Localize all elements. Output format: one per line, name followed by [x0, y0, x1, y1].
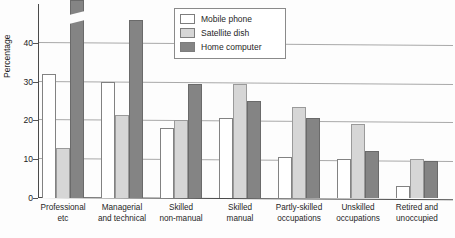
bar-home-computer-2	[129, 20, 143, 198]
bar-satellite-dish-4	[233, 84, 247, 198]
bar-home-computer-1	[70, 0, 84, 198]
x-category-label-line: Skilled	[207, 203, 273, 214]
bar-mobile-phone-3	[160, 128, 174, 198]
bar-mobile-phone-6	[337, 159, 351, 198]
bar-mobile-phone-7	[396, 186, 410, 198]
axis-break-icon	[70, 11, 84, 23]
legend-item-satellite-dish: Satellite dish	[180, 26, 280, 40]
legend-label-satellite-dish: Satellite dish	[201, 29, 249, 38]
y-tick-label-20: 20	[24, 116, 33, 125]
x-category-label-line: non-manual	[148, 214, 214, 225]
x-category-label-line: Skilled	[148, 203, 214, 214]
bar-satellite-dish-3	[174, 120, 188, 198]
y-axis-title: Percentage	[2, 35, 12, 78]
bar-group-7	[396, 4, 438, 198]
legend-item-home-computer: Home computer	[180, 40, 280, 54]
chart-legend: Mobile phone Satellite dish Home compute…	[174, 8, 286, 59]
bar-group-1	[42, 4, 84, 198]
y-tick-label-30: 30	[24, 77, 33, 86]
bar-group-2	[101, 4, 143, 198]
x-category-label-line: Professional	[30, 203, 96, 214]
bar-home-computer-3	[188, 84, 202, 198]
x-category-label-line: Partly-skilled	[266, 203, 332, 214]
bar-home-computer-7	[424, 161, 438, 198]
bar-mobile-phone-5	[278, 157, 292, 198]
bar-home-computer-4	[247, 101, 261, 198]
x-category-label-line: occupations	[325, 214, 391, 225]
bar-satellite-dish-2	[115, 115, 129, 198]
x-category-label-6: Unskilledoccupations	[325, 203, 391, 224]
x-category-label-line: occupations	[266, 214, 332, 225]
legend-label-home-computer: Home computer	[201, 43, 261, 52]
x-category-label-4: Skilledmanual	[207, 203, 273, 224]
y-tick-mark-0	[33, 198, 38, 199]
y-tick-label-40: 40	[24, 39, 33, 48]
legend-swatch-icon-satellite-dish	[180, 28, 195, 38]
x-category-label-2: Managerialand technical	[89, 203, 155, 224]
legend-label-mobile-phone: Mobile phone	[201, 15, 252, 24]
bar-mobile-phone-2	[101, 82, 115, 198]
y-axis-line	[38, 4, 39, 198]
bar-chart-figure: Percentage 010203040 Mobile phone Satell…	[0, 0, 455, 238]
x-category-label-3: Skillednon-manual	[148, 203, 214, 224]
x-category-label-line: and technical	[89, 214, 155, 225]
bar-group-6	[337, 4, 379, 198]
x-category-label-line: Unskilled	[325, 203, 391, 214]
x-category-label-1: Professionaletc	[30, 203, 96, 224]
x-category-label-line: etc	[30, 214, 96, 225]
bar-mobile-phone-4	[219, 118, 233, 198]
x-category-label-line: unoccupied	[384, 214, 450, 225]
x-category-label-7: Retired andunoccupied	[384, 203, 450, 224]
bar-satellite-dish-6	[351, 124, 365, 198]
x-axis-category-labels: ProfessionaletcManagerialand technicalSk…	[38, 203, 453, 235]
bar-satellite-dish-7	[410, 159, 424, 198]
legend-item-mobile-phone: Mobile phone	[180, 12, 280, 26]
bar-home-computer-5	[306, 118, 320, 198]
bar-satellite-dish-1	[56, 148, 70, 198]
y-tick-label-10: 10	[24, 155, 33, 164]
x-category-label-5: Partly-skilledoccupations	[266, 203, 332, 224]
legend-swatch-icon-mobile-phone	[180, 14, 195, 24]
legend-swatch-icon-home-computer	[180, 42, 195, 52]
x-category-label-line: manual	[207, 214, 273, 225]
bar-mobile-phone-1	[42, 74, 56, 198]
x-category-label-line: Retired and	[384, 203, 450, 214]
x-category-label-line: Managerial	[89, 203, 155, 214]
bar-home-computer-6	[365, 151, 379, 198]
bar-satellite-dish-5	[292, 107, 306, 198]
